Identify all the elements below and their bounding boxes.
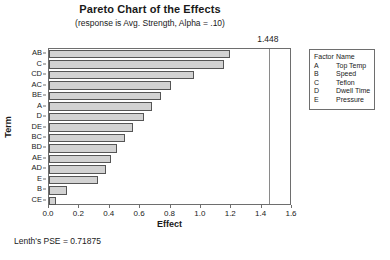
x-tick-mark xyxy=(48,205,49,208)
y-tick-label-ae: AE xyxy=(32,154,42,162)
reference-line-label: 1.448 xyxy=(257,34,278,44)
legend-factor-code: B xyxy=(314,70,336,79)
x-tick-mark xyxy=(109,205,110,208)
legend-row-c: CTeflon xyxy=(314,79,370,88)
lenth-pse-annotation: Lenth's PSE = 0.71875 xyxy=(14,236,101,246)
y-tick-label-bd: BD xyxy=(32,143,42,151)
y-tick-mark xyxy=(43,84,46,85)
y-tick-label-cd: CD xyxy=(31,70,42,78)
legend-factor-name: Top Temp xyxy=(336,62,370,71)
bar-row xyxy=(49,80,290,90)
legend-factor-code: E xyxy=(314,96,336,105)
bar-bd xyxy=(49,144,117,152)
legend-factor-code: A xyxy=(314,62,336,71)
y-tick-label-ad: AD xyxy=(32,164,42,172)
y-tick-label-ce: CE xyxy=(32,196,42,204)
bar-row xyxy=(49,185,290,195)
bar-row xyxy=(49,70,290,80)
legend-factor-name: Speed xyxy=(336,70,370,79)
y-tick-label-e: E xyxy=(37,175,42,183)
bar-row xyxy=(49,49,290,59)
legend-row-b: BSpeed xyxy=(314,70,370,79)
bar-row xyxy=(49,175,290,185)
y-tick-mark xyxy=(43,126,46,127)
bars-layer xyxy=(49,49,290,204)
x-tick-mark xyxy=(139,205,140,208)
factor-legend: Factor Name ATop TempBSpeedCTeflonDDwell… xyxy=(309,49,375,110)
bar-ab xyxy=(49,50,230,58)
legend-factor-name: Teflon xyxy=(336,79,370,88)
plot-area xyxy=(48,48,291,205)
bar-row xyxy=(49,154,290,164)
x-tick-mark xyxy=(78,205,79,208)
bar-bc xyxy=(49,134,125,142)
x-tick-mark xyxy=(170,205,171,208)
y-tick-label-d: D xyxy=(37,112,42,120)
x-tick-label-1-0: 1.0 xyxy=(194,209,205,219)
y-tick-label-ac: AC xyxy=(32,81,42,89)
y-tick-label-be: BE xyxy=(32,91,42,99)
bar-ce xyxy=(49,197,56,205)
bar-ae xyxy=(49,155,111,163)
bar-a xyxy=(49,102,152,110)
bar-row xyxy=(49,59,290,69)
y-tick-label-a: A xyxy=(37,102,42,110)
y-tick-mark xyxy=(43,53,46,54)
y-tick-mark xyxy=(43,178,46,179)
y-tick-label-ab: AB xyxy=(32,49,42,57)
legend-factor-name: Pressure xyxy=(336,96,370,105)
bar-de xyxy=(49,123,133,131)
legend-factor-code: C xyxy=(314,79,336,88)
y-tick-mark xyxy=(43,189,46,190)
page-title: Pareto Chart of the Effects xyxy=(0,3,300,16)
y-tick-label-de: DE xyxy=(32,123,42,131)
legend-header-row: Factor Name xyxy=(314,53,370,62)
y-tick-mark xyxy=(43,116,46,117)
bar-ad xyxy=(49,165,106,173)
x-tick-label-0-4: 0.4 xyxy=(103,209,114,219)
y-tick-mark xyxy=(43,168,46,169)
x-tick-mark xyxy=(230,205,231,208)
bar-row xyxy=(49,133,290,143)
y-tick-mark xyxy=(43,105,46,106)
x-tick-label-0-8: 0.8 xyxy=(164,209,175,219)
x-tick-label-1-6: 1.6 xyxy=(285,209,296,219)
legend-row-d: DDwell Time xyxy=(314,87,370,96)
x-tick-mark xyxy=(291,205,292,208)
x-tick-label-0-2: 0.2 xyxy=(73,209,84,219)
y-axis-title-label: Term xyxy=(3,116,13,137)
legend-row-e: EPressure xyxy=(314,96,370,105)
x-tick-label-0-0: 0.0 xyxy=(42,209,53,219)
legend-header-factor: Factor xyxy=(314,53,336,62)
y-tick-mark xyxy=(43,136,46,137)
bar-row xyxy=(49,101,290,111)
y-axis-title: Term xyxy=(2,48,14,205)
y-tick-mark xyxy=(43,63,46,64)
bar-b xyxy=(49,186,67,194)
bar-c xyxy=(49,60,224,68)
bar-cd xyxy=(49,71,194,79)
bar-row xyxy=(49,91,290,101)
y-tick-label-bc: BC xyxy=(32,133,42,141)
x-axis-title: Effect xyxy=(48,219,291,229)
reference-line xyxy=(269,49,270,204)
x-tick-mark xyxy=(200,205,201,208)
y-tick-mark xyxy=(43,95,46,96)
x-tick-label-0-6: 0.6 xyxy=(134,209,145,219)
bar-ac xyxy=(49,81,171,89)
x-tick-label-1-4: 1.4 xyxy=(255,209,266,219)
x-tick-mark xyxy=(261,205,262,208)
bar-d xyxy=(49,113,144,121)
y-tick-mark xyxy=(43,157,46,158)
chart-subtitle: (response is Avg. Strength, Alpha = .10) xyxy=(0,17,300,29)
y-tick-label-b: B xyxy=(37,185,42,193)
legend-factor-code: D xyxy=(314,87,336,96)
y-axis-tick-labels: ABCCDACBEADDEBCBDAEADEBCE xyxy=(20,48,46,205)
x-tick-label-1-2: 1.2 xyxy=(225,209,236,219)
bar-e xyxy=(49,176,98,184)
bar-row xyxy=(49,122,290,132)
legend-factor-name: Dwell Time xyxy=(336,87,370,96)
y-tick-mark xyxy=(43,74,46,75)
bar-row xyxy=(49,143,290,153)
legend-row-a: ATop Temp xyxy=(314,62,370,71)
